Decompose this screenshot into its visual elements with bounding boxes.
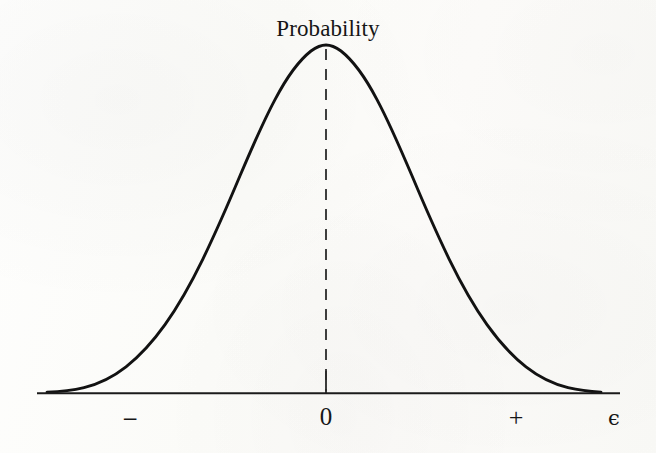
x-axis-tick-label-minus: − (110, 406, 150, 433)
x-axis-label-epsilon: ϵ (596, 408, 632, 429)
page-title: Probability (0, 17, 656, 40)
x-axis-tick-label-plus: + (496, 405, 536, 431)
gaussian-curve (47, 45, 601, 392)
x-axis-tick-label-zero: 0 (306, 404, 346, 429)
figure-page: Probability − 0 + ϵ (0, 0, 656, 453)
probability-distribution-figure (0, 0, 656, 453)
